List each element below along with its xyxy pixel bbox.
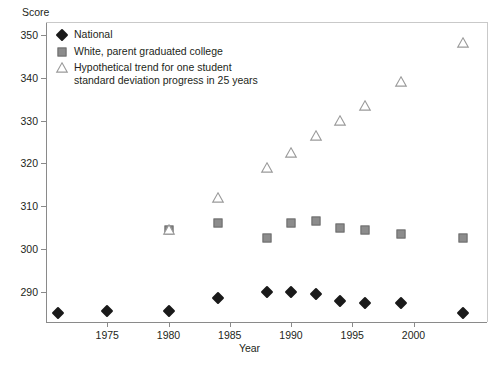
data-point-triangle [310, 130, 322, 141]
x-tick-label: 1980 [157, 329, 180, 341]
data-point-triangle [212, 192, 224, 203]
x-tick-label: 1975 [96, 329, 119, 341]
plot-area [46, 22, 487, 322]
x-tick-mark [107, 322, 108, 327]
y-tick-label: 350 [0, 29, 38, 41]
x-tick-mark [352, 322, 353, 327]
x-tick-label: 1985 [218, 329, 241, 341]
series-group [46, 22, 487, 322]
data-point-triangle [163, 224, 175, 235]
y-tick-label: 290 [0, 286, 38, 298]
y-tick-label: 330 [0, 115, 38, 127]
y-tick-label: 320 [0, 157, 38, 169]
x-tick-label: 2000 [402, 329, 425, 341]
x-tick-mark [291, 322, 292, 327]
y-tick-label: 310 [0, 200, 38, 212]
y-tick-label: 300 [0, 243, 38, 255]
x-tick-mark [230, 322, 231, 327]
data-point-triangle [285, 147, 297, 158]
x-tick-mark [169, 322, 170, 327]
plot-right-border [487, 22, 488, 322]
data-point-triangle [334, 115, 346, 126]
x-tick-label: 1990 [279, 329, 302, 341]
data-point-triangle [359, 100, 371, 111]
data-point-triangle [457, 37, 469, 48]
data-point-triangle [261, 162, 273, 173]
x-tick-label: 1995 [341, 329, 364, 341]
y-axis-title: Score [22, 6, 49, 18]
y-tick-label: 340 [0, 72, 38, 84]
x-axis-title: Year [0, 342, 499, 354]
data-point-triangle [395, 76, 407, 87]
x-axis-line [46, 322, 487, 323]
x-tick-mark [414, 322, 415, 327]
chart-container: Score Year 290300310320330340350 1975198… [0, 0, 499, 366]
